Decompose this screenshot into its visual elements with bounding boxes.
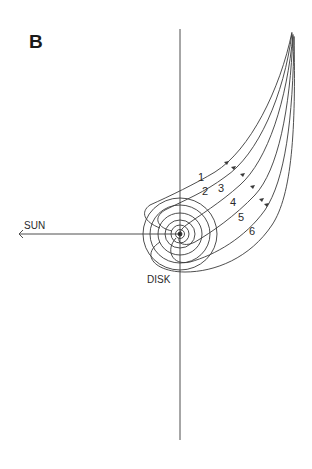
streamline-label-3: 3 xyxy=(218,183,224,194)
streamline-6 xyxy=(151,37,295,272)
arrow-icon xyxy=(259,198,264,202)
arrow-icon xyxy=(250,185,255,189)
arrow-icon xyxy=(240,173,245,177)
streamline-3 xyxy=(180,34,293,235)
streamline-5 xyxy=(171,36,294,263)
panel-label: B xyxy=(29,32,43,51)
disk-label: DISK xyxy=(147,275,170,285)
streamlines xyxy=(145,32,295,272)
accretion-diagram xyxy=(0,0,312,469)
streamline-label-5: 5 xyxy=(238,212,244,223)
streamline-label-2: 2 xyxy=(202,186,208,197)
streamline-label-6: 6 xyxy=(249,226,255,237)
streamline-label-4: 4 xyxy=(230,197,236,208)
streamline-1 xyxy=(145,32,292,228)
streamline-4 xyxy=(179,35,293,244)
sun-label: SUN xyxy=(24,221,45,231)
streamline-label-1: 1 xyxy=(198,172,204,183)
